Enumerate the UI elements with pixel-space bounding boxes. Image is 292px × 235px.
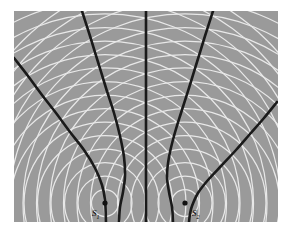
source-label-subscript-s2: 2 xyxy=(197,214,200,220)
source-dot-s1 xyxy=(102,200,107,205)
source-label-subscript-s1: 1 xyxy=(97,214,100,220)
interference-figure: S1S2 xyxy=(0,0,292,235)
interference-diagram: S1S2 xyxy=(0,0,292,235)
source-dot-s2 xyxy=(182,200,187,205)
